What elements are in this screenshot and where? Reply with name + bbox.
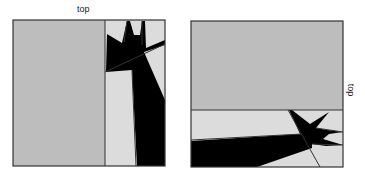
right-gray-region (191, 21, 343, 110)
left-gray-region (13, 20, 105, 166)
quilt-diagram (0, 0, 365, 180)
right-panel (191, 21, 343, 167)
left-panel (13, 20, 165, 166)
